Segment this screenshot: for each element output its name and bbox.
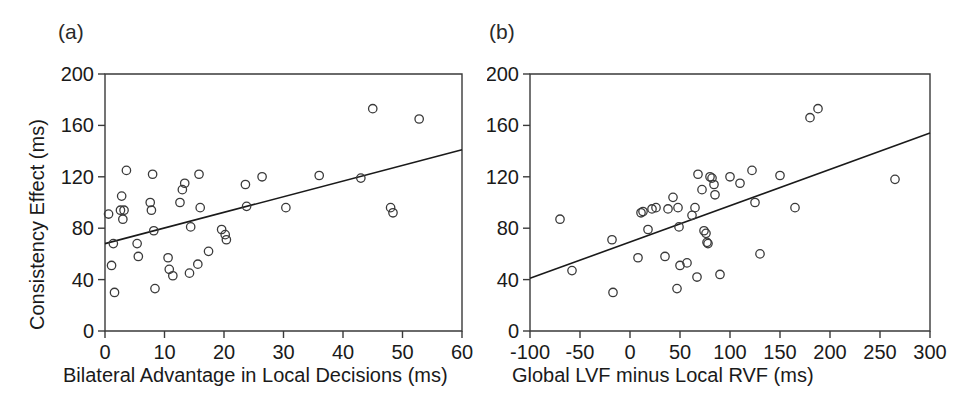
data-point [673, 284, 681, 292]
y-tick-label: 40 [72, 269, 94, 291]
y-tick-label: 80 [497, 217, 519, 239]
data-point [776, 171, 784, 179]
data-point [736, 179, 744, 187]
data-point [176, 198, 184, 206]
x-tick-label: 250 [863, 341, 896, 363]
figure-container: (a) Consistency Effect (ms) Bilateral Ad… [0, 0, 974, 409]
data-point [609, 288, 617, 296]
data-point [107, 261, 115, 269]
data-point [110, 288, 118, 296]
data-point [661, 252, 669, 260]
data-point [164, 254, 172, 262]
data-point [151, 284, 159, 292]
x-tick-label: 20 [213, 341, 235, 363]
data-point [674, 203, 682, 211]
y-tick-label: 200 [61, 63, 94, 85]
y-tick-label: 120 [487, 166, 519, 188]
data-point [357, 174, 365, 182]
data-point [389, 209, 397, 217]
data-point [147, 206, 155, 214]
data-point [694, 170, 702, 178]
data-point [711, 191, 719, 199]
data-point [117, 192, 125, 200]
y-tick-label: 80 [72, 217, 94, 239]
data-point [748, 166, 756, 174]
data-point [669, 193, 677, 201]
data-point [241, 180, 249, 188]
y-tick-label: 0 [508, 320, 519, 342]
panel-b-plot: 04080120160200-100-50050100150200250300 [487, 0, 974, 409]
data-point [691, 203, 699, 211]
x-tick-label: 200 [813, 341, 846, 363]
data-point [568, 266, 576, 274]
data-point [644, 225, 652, 233]
data-point [195, 170, 203, 178]
data-point [122, 166, 130, 174]
y-tick-label: 160 [487, 114, 519, 136]
x-tick-label: 150 [763, 341, 796, 363]
data-point [891, 175, 899, 183]
y-tick-label: 200 [487, 63, 519, 85]
data-point [814, 104, 822, 112]
data-point [634, 254, 642, 262]
data-point [608, 236, 616, 244]
x-tick-label: 0 [99, 341, 110, 363]
x-tick-label: -50 [566, 341, 595, 363]
x-tick-label: 300 [913, 341, 946, 363]
data-point [204, 247, 212, 255]
data-point [258, 173, 266, 181]
data-point [133, 239, 141, 247]
data-point [702, 229, 710, 237]
data-point [664, 205, 672, 213]
data-point [119, 215, 127, 223]
x-tick-label: 10 [153, 341, 175, 363]
data-point [756, 250, 764, 258]
data-point [806, 113, 814, 121]
data-point [148, 170, 156, 178]
x-tick-label: 50 [391, 341, 413, 363]
data-point [222, 236, 230, 244]
data-point [386, 203, 394, 211]
panel-a-plot: 040801201602000102030405060 [0, 0, 487, 409]
data-point [693, 273, 701, 281]
data-point [751, 198, 759, 206]
data-point [194, 260, 202, 268]
data-point [165, 265, 173, 273]
data-point [791, 203, 799, 211]
y-tick-label: 40 [497, 269, 519, 291]
x-tick-label: 40 [332, 341, 354, 363]
x-tick-label: 30 [272, 341, 294, 363]
data-point [185, 269, 193, 277]
x-tick-label: 60 [451, 341, 473, 363]
data-point [556, 215, 564, 223]
x-tick-label: -100 [510, 341, 550, 363]
data-point [716, 270, 724, 278]
regression-line [105, 150, 462, 244]
data-point [369, 104, 377, 112]
data-point [700, 227, 708, 235]
regression-line [530, 133, 930, 278]
data-point [146, 198, 154, 206]
y-tick-label: 0 [83, 320, 94, 342]
data-point [196, 203, 204, 211]
y-tick-label: 120 [61, 166, 94, 188]
data-point [134, 252, 142, 260]
y-tick-label: 160 [61, 114, 94, 136]
data-point [698, 185, 706, 193]
x-tick-label: 0 [624, 341, 635, 363]
data-point [282, 203, 290, 211]
data-point [315, 171, 323, 179]
panel-b: (b) Global LVF minus Local RVF (ms) 0408… [487, 0, 974, 409]
panel-a: (a) Consistency Effect (ms) Bilateral Ad… [0, 0, 487, 409]
data-point [186, 223, 194, 231]
data-point [415, 115, 423, 123]
x-tick-label: 100 [713, 341, 746, 363]
data-point [169, 272, 177, 280]
data-point [726, 173, 734, 181]
x-tick-label: 50 [669, 341, 691, 363]
